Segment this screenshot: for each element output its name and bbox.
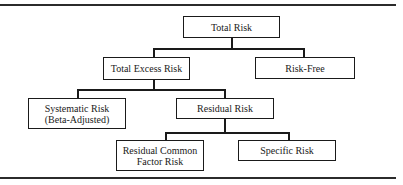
connector <box>153 48 155 57</box>
connector <box>77 89 79 98</box>
connector <box>231 38 233 48</box>
node-total-excess-risk-label: Total Excess Risk <box>111 63 183 74</box>
connector <box>303 48 305 57</box>
node-systematic-risk-label-1: Systematic Risk <box>45 103 110 114</box>
node-residual-common-factor-label-1: Residual Common <box>123 145 198 156</box>
node-specific-risk-label: Specific Risk <box>260 145 314 156</box>
connector <box>224 89 226 98</box>
node-total-excess-risk: Total Excess Risk <box>103 57 190 80</box>
connector <box>165 132 290 134</box>
node-residual-risk-label: Residual Risk <box>197 103 253 114</box>
connector <box>224 119 226 132</box>
top-rule <box>0 4 396 6</box>
connector <box>77 89 226 91</box>
connector <box>288 132 290 140</box>
node-risk-free: Risk-Free <box>255 57 355 79</box>
node-systematic-risk: Systematic Risk (Beta-Adjusted) <box>28 98 126 129</box>
connector <box>165 132 167 140</box>
node-residual-risk: Residual Risk <box>176 98 274 119</box>
bottom-rule <box>0 177 396 179</box>
node-specific-risk: Specific Risk <box>238 140 336 161</box>
node-total-risk-label: Total Risk <box>211 22 252 33</box>
node-residual-common-factor-risk: Residual Common Factor Risk <box>116 140 204 171</box>
node-systematic-risk-label-2: (Beta-Adjusted) <box>45 114 109 125</box>
connector <box>153 48 305 50</box>
node-total-risk: Total Risk <box>183 16 280 38</box>
connector <box>153 80 155 89</box>
node-risk-free-label: Risk-Free <box>285 63 324 74</box>
node-residual-common-factor-label-2: Factor Risk <box>137 156 183 167</box>
